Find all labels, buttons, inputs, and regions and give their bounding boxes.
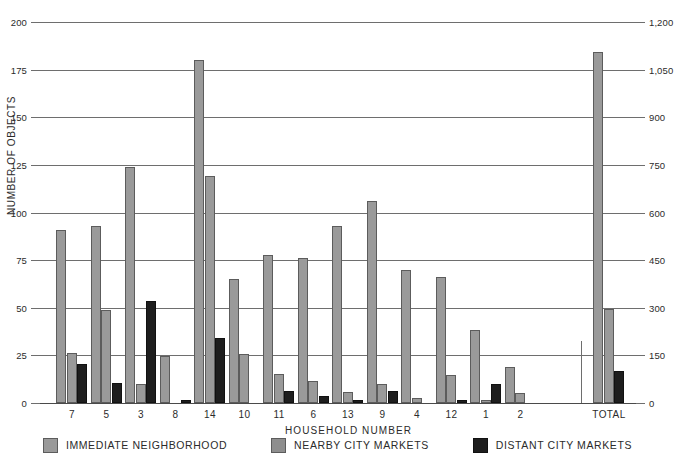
x-axis-label-2: 2 <box>518 409 524 420</box>
bar-12-series-1 <box>446 375 456 403</box>
total-baseline <box>581 403 636 404</box>
x-axis-label-5: 5 <box>104 409 110 420</box>
bar-10-series-1 <box>239 354 249 403</box>
y-axis-label-left: 150 <box>11 112 27 123</box>
bar-7-series-1 <box>67 353 77 403</box>
gridline <box>40 165 636 166</box>
legend-swatch-icon-2 <box>473 438 488 453</box>
bar-11-series-1 <box>274 374 284 403</box>
x-axis-label-3: 3 <box>138 409 144 420</box>
x-axis-label-13: 13 <box>342 409 354 420</box>
bar-3-series-2 <box>146 301 156 403</box>
bar-9-series-1 <box>377 384 387 403</box>
legend-item-1[interactable]: NEARBY CITY MARKETS <box>271 438 429 453</box>
x-axis-label-9: 9 <box>380 409 386 420</box>
legend-item-0[interactable]: IMMEDIATE NEIGHBORHOOD <box>43 438 227 453</box>
y-axis-label-right: 1,200 <box>649 17 673 28</box>
bar-7-series-2 <box>77 364 87 403</box>
bar-1-series-1 <box>481 400 491 403</box>
bar-7-series-0 <box>56 230 66 403</box>
bar-14-series-0 <box>194 60 204 403</box>
y-tick-right <box>636 22 645 23</box>
bar-12-series-0 <box>436 277 446 403</box>
bar-5-series-2 <box>112 383 122 403</box>
bar-5-series-0 <box>91 226 101 403</box>
legend-swatch-icon-1 <box>271 438 286 453</box>
bar-9-series-2 <box>388 391 398 403</box>
bar-total-series-2 <box>614 371 624 403</box>
x-axis-label-6: 6 <box>311 409 317 420</box>
y-axis-label-left: 125 <box>11 159 27 170</box>
y-axis-label-right: 600 <box>649 207 665 218</box>
y-axis-label-right: 300 <box>649 302 665 313</box>
bar-6-series-2 <box>319 396 329 403</box>
bar-total-series-0 <box>593 52 603 403</box>
gridline <box>40 70 636 71</box>
y-tick-right <box>636 355 645 356</box>
legend-item-2[interactable]: DISTANT CITY MARKETS <box>473 438 632 453</box>
legend-label-2: DISTANT CITY MARKETS <box>496 439 632 451</box>
y-axis-label-left: 50 <box>16 302 27 313</box>
bar-6-series-0 <box>298 258 308 403</box>
bar-1-series-2 <box>491 384 501 403</box>
y-tick-left <box>31 117 40 118</box>
bar-total-series-1 <box>604 309 614 403</box>
y-axis-label-left: 25 <box>16 350 27 361</box>
x-axis-label-12: 12 <box>446 409 458 420</box>
y-tick-left <box>31 165 40 166</box>
y-axis-label-right: 1,050 <box>649 64 673 75</box>
gridline <box>40 117 636 118</box>
bar-13-series-2 <box>353 400 363 403</box>
x-axis-label-14: 14 <box>204 409 216 420</box>
bar-2-series-0 <box>505 367 515 403</box>
chart-legend: IMMEDIATE NEIGHBORHOODNEARBY CITY MARKET… <box>0 430 675 460</box>
y-tick-right <box>636 403 645 404</box>
bar-2-series-1 <box>515 393 525 403</box>
plot-area: 002515050300754501006001257501509001751,… <box>40 22 636 403</box>
y-axis-label-left: 200 <box>11 17 27 28</box>
bar-9-series-0 <box>367 201 377 403</box>
bar-chart: NUMBER OF OBJECTS 0025150503007545010060… <box>0 0 675 465</box>
legend-swatch-icon-0 <box>43 438 58 453</box>
x-axis-label-4: 4 <box>414 409 420 420</box>
bar-3-series-0 <box>125 167 135 403</box>
y-tick-left <box>31 70 40 71</box>
y-axis-label-right: 750 <box>649 159 665 170</box>
y-tick-right <box>636 308 645 309</box>
bar-8-series-2 <box>181 400 191 403</box>
gridline <box>40 403 581 404</box>
y-tick-right <box>636 117 645 118</box>
bar-11-series-0 <box>263 255 273 403</box>
x-axis-label-8: 8 <box>173 409 179 420</box>
y-tick-left <box>31 403 40 404</box>
x-axis-label-10: 10 <box>239 409 251 420</box>
y-axis-label-right: 0 <box>649 398 654 409</box>
bar-13-series-1 <box>343 392 353 403</box>
y-tick-right <box>636 213 645 214</box>
y-tick-left <box>31 22 40 23</box>
bar-3-series-1 <box>136 384 146 403</box>
bar-5-series-1 <box>101 310 111 403</box>
x-axis-label-total: TOTAL <box>592 409 625 420</box>
y-tick-left <box>31 308 40 309</box>
bar-6-series-1 <box>308 381 318 403</box>
y-tick-right <box>636 260 645 261</box>
y-tick-left <box>31 260 40 261</box>
bar-11-series-2 <box>284 391 294 403</box>
y-tick-left <box>31 213 40 214</box>
bar-10-series-0 <box>229 279 239 403</box>
y-axis-label-left: 0 <box>22 398 27 409</box>
y-axis-label-left: 175 <box>11 64 27 75</box>
gridline <box>40 22 636 23</box>
bar-1-series-0 <box>470 330 480 403</box>
y-tick-right <box>636 70 645 71</box>
y-tick-right <box>636 165 645 166</box>
y-axis-label-right: 900 <box>649 112 665 123</box>
legend-label-1: NEARBY CITY MARKETS <box>294 439 429 451</box>
x-axis-label-7: 7 <box>69 409 75 420</box>
bar-4-series-1 <box>412 398 422 403</box>
y-axis-label-left: 100 <box>11 207 27 218</box>
bar-14-series-1 <box>205 176 215 403</box>
bar-8-series-0 <box>160 356 170 403</box>
bar-12-series-2 <box>457 400 467 403</box>
